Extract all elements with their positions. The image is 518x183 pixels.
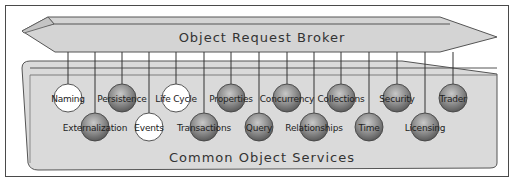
object-request-broker-label: Object Request Broker (179, 30, 346, 45)
service-label: Externalization (63, 123, 127, 133)
service-label: Persistence (97, 94, 146, 104)
service-label: Security (379, 94, 414, 104)
service-label: Collections (317, 94, 364, 104)
service-label: Relationships (285, 123, 342, 133)
service-label: Query (246, 123, 272, 133)
service-label: Events (134, 123, 163, 133)
service-label: Life Cycle (155, 94, 197, 104)
service-label: Trader (439, 94, 466, 104)
service-label: Transactions (177, 123, 231, 133)
service-label: Time (358, 123, 379, 133)
service-label: Licensing (405, 123, 446, 133)
service-label: Naming (51, 94, 85, 104)
common-object-services-label: Common Object Services (169, 150, 355, 165)
service-label: Properties (209, 94, 252, 104)
service-label: Concurrency (260, 94, 315, 104)
